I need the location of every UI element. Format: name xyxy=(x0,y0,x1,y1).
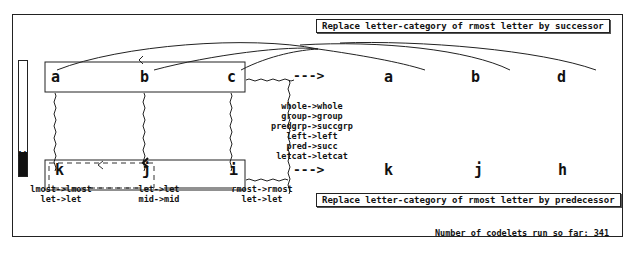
target-letter-1: k xyxy=(55,163,64,178)
target-letter-3: i xyxy=(229,163,238,178)
concept-mapping: left->left xyxy=(262,131,362,141)
arc-a xyxy=(57,43,318,70)
bond-a-k xyxy=(54,93,56,171)
mapping-label: lmost->lmost xyxy=(26,184,96,194)
answer-letter-1: k xyxy=(384,163,393,178)
bond-c-i xyxy=(230,93,232,171)
modified-letter-3: d xyxy=(557,70,566,85)
concept-mapping: group->group xyxy=(262,111,362,121)
concept-mapping: pred->succ xyxy=(262,141,362,151)
transform-arrow-bottom: ---> xyxy=(293,162,324,177)
bond-b-j xyxy=(143,93,145,171)
concept-mapping: predgrp->succgrp xyxy=(262,121,362,131)
initial-letter-3: c xyxy=(227,70,236,85)
codelet-count-status: Number of codelets run so far: 341 xyxy=(435,228,609,238)
modified-letter-2: b xyxy=(471,70,480,85)
mapping-labels-k: lmost->lmost let->let xyxy=(26,184,96,204)
arc-b xyxy=(154,48,318,70)
concept-mapping: whole->whole xyxy=(262,101,362,111)
initial-letter-1: a xyxy=(51,70,60,85)
initial-letter-2: b xyxy=(140,70,149,85)
answer-letter-3: h xyxy=(558,163,567,178)
mapping-label: let->let xyxy=(26,194,96,204)
target-letter-2: j xyxy=(142,163,151,178)
modified-letter-1: a xyxy=(384,70,393,85)
mapping-label: let->let xyxy=(128,184,190,194)
transform-arrow-top: ---> xyxy=(293,68,324,83)
concept-mapping: letcat->letcat xyxy=(262,151,362,161)
mapping-label: mid->mid xyxy=(128,194,190,204)
answer-letter-2: j xyxy=(474,163,483,178)
arc-c xyxy=(241,49,318,70)
mapping-label: let->let xyxy=(226,194,298,204)
mapping-labels-j: let->let mid->mid xyxy=(128,184,190,204)
concept-mappings: whole->whole group->group predgrp->succg… xyxy=(262,101,362,161)
mapping-label: rmost->rmost xyxy=(226,184,298,194)
mapping-labels-i: rmost->rmost let->let xyxy=(226,184,298,204)
